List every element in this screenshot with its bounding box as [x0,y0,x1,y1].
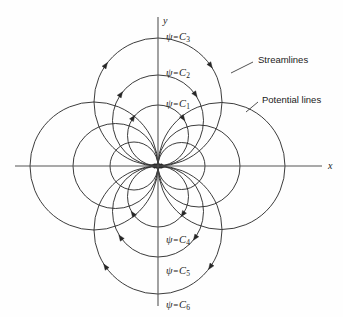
callout-leaders-group [231,62,258,112]
streamline-arrow-upper-right-2 [207,62,212,68]
streamline-arrow-upper-left-2 [102,63,107,69]
streamline-arrow-upper-left-0 [130,115,135,121]
streamline-arrow-upper-right-1 [192,91,197,97]
streamline-arrow-upper-left-1 [117,92,122,98]
streamline-arrow-lower-right-0 [181,210,186,216]
streamline-arrow-lower-left-1 [119,235,124,241]
streamlines-leader-line [231,62,253,73]
axes-group [15,17,322,306]
doublet-flow-net-figure: ψ=C3ψ=C2ψ=C1ψ=C4ψ=C5ψ=C6 x y Streamlines… [0,0,343,317]
streamline-arrow-lower-left-0 [131,211,136,217]
streamline-arrow-lower-left-2 [104,264,109,270]
streamline-arrow-lower-right-2 [209,263,214,269]
flow-net-diagram [0,0,343,317]
streamline-arrow-upper-right-0 [179,114,184,120]
streamline-arrow-lower-right-1 [193,234,198,240]
